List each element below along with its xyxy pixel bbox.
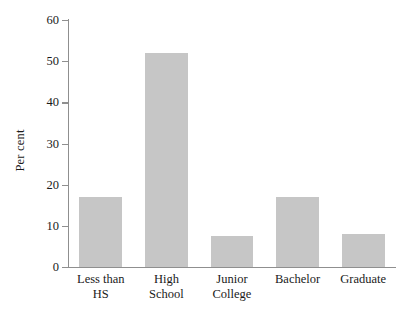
y-tick-label: 0 <box>53 261 59 274</box>
x-axis-category-label: High School <box>134 272 200 301</box>
plot-area: 0102030405060 <box>68 20 396 267</box>
y-tick-label: 30 <box>47 137 60 150</box>
y-tick-mark <box>62 267 68 268</box>
bar <box>342 234 385 267</box>
y-tick-label: 10 <box>47 220 60 233</box>
bar-chart: Per cent 0102030405060 Less than HSHigh … <box>0 0 410 324</box>
x-axis-category-label: Bachelor <box>265 272 331 287</box>
y-tick-label: 60 <box>47 14 60 27</box>
y-axis-title: Per cent <box>0 0 40 300</box>
y-axis-title-text: Per cent <box>13 129 28 171</box>
y-tick-mark <box>62 226 68 227</box>
x-axis-category-label: Graduate <box>330 272 396 287</box>
bar <box>211 236 254 267</box>
y-tick-label: 20 <box>47 178 60 191</box>
x-axis-category-label: Less than HS <box>68 272 134 301</box>
y-tick-label: 40 <box>47 96 60 109</box>
y-tick-label: 50 <box>47 55 60 68</box>
x-axis-category-label: Junior College <box>199 272 265 301</box>
bar <box>276 197 319 267</box>
bar <box>79 197 122 267</box>
y-tick-mark <box>62 61 68 62</box>
bar <box>145 53 188 267</box>
y-tick-mark <box>62 20 68 21</box>
y-tick-mark <box>62 144 68 145</box>
y-tick-mark <box>62 185 68 186</box>
y-tick-mark <box>62 102 68 103</box>
